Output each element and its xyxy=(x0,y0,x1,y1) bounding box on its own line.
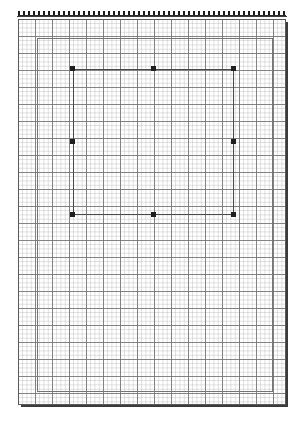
resize-handle-n[interactable] xyxy=(151,66,156,71)
resize-handle-ne[interactable] xyxy=(231,66,236,71)
resize-handle-w[interactable] xyxy=(70,139,75,144)
resize-handle-nw[interactable] xyxy=(70,66,75,71)
selected-rectangle-shape[interactable] xyxy=(73,69,234,215)
margin-guide-label: Margin guide xyxy=(0,0,1,1)
canvas-workspace[interactable]: Page Layout Canvas Page Grid Margin guid… xyxy=(0,0,303,430)
resize-handle-se[interactable] xyxy=(231,212,236,217)
page-label: Page xyxy=(0,0,1,1)
resize-handle-e[interactable] xyxy=(231,139,236,144)
resize-handle-sw[interactable] xyxy=(70,212,75,217)
resize-handle-s[interactable] xyxy=(151,212,156,217)
page-title: Page Layout Canvas xyxy=(0,0,1,1)
grid-label: Grid xyxy=(0,0,1,1)
selection-label: Selected rectangle xyxy=(0,0,1,1)
horizontal-ruler-baseline xyxy=(17,16,287,17)
